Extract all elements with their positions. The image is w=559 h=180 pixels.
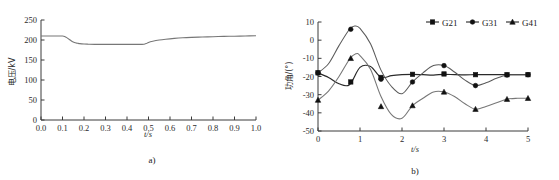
- y-tick-label: -50: [303, 126, 314, 136]
- series-marker-g31: [442, 63, 447, 68]
- y-tick-label: -30: [303, 90, 314, 100]
- x-tick-label: 4: [484, 134, 489, 144]
- chart-b-x-axis-title: t/s: [411, 144, 420, 154]
- chart-a-x-axis-title: t/s: [144, 129, 153, 139]
- series-marker-g31: [316, 71, 321, 76]
- series-marker-g31: [410, 80, 415, 85]
- chart-a-svg: 0.00.10.20.30.40.50.60.70.80.91.00501001…: [0, 0, 280, 180]
- series-marker-g31: [473, 83, 478, 88]
- y-tick-label: 10: [306, 17, 315, 27]
- chart-a-caption: a): [149, 155, 156, 165]
- y-tick-label: 0: [33, 115, 37, 125]
- y-tick-label: -40: [303, 108, 314, 118]
- y-tick-label: 200: [24, 35, 37, 45]
- x-tick-label: 0.9: [229, 123, 240, 133]
- legend-marker-g21: [430, 20, 434, 24]
- x-tick-label: 0.3: [100, 123, 111, 133]
- x-tick-label: 0.0: [36, 123, 47, 133]
- x-tick-label: 3: [442, 134, 446, 144]
- y-tick-label: 100: [24, 75, 37, 85]
- x-tick-label: 1: [358, 134, 362, 144]
- series-marker-g21: [473, 72, 477, 76]
- series-marker-g21: [410, 72, 414, 76]
- series-marker-g31: [526, 72, 531, 77]
- x-tick-label: 1.0: [251, 123, 262, 133]
- x-tick-label: 0.6: [165, 123, 176, 133]
- x-tick-label: 0.7: [186, 123, 197, 133]
- chart-a-y-axis-title: 电压/kV: [7, 57, 17, 86]
- x-tick-label: 0: [316, 134, 320, 144]
- legend-label-g31: G31: [482, 18, 498, 28]
- series-line-voltage: [41, 36, 256, 45]
- figure-root: 0.00.10.20.30.40.50.60.70.80.91.00501001…: [0, 0, 559, 180]
- chart-panel-a: 0.00.10.20.30.40.50.60.70.80.91.00501001…: [0, 0, 280, 180]
- chart-a-plot-area: 0.00.10.20.30.40.50.60.70.80.91.00501001…: [24, 15, 261, 133]
- x-tick-label: 5: [526, 134, 530, 144]
- chart-panel-b: 012345100-10-20-30-40-50 G21G31G41 功角/(°…: [280, 0, 559, 180]
- y-tick-label: 250: [24, 15, 37, 25]
- chart-b-plot-area: 012345100-10-20-30-40-50: [303, 17, 531, 144]
- legend-marker-g31: [470, 20, 475, 25]
- y-tick-label: 150: [24, 55, 37, 65]
- chart-b-svg: 012345100-10-20-30-40-50 G21G31G41 功角/(°…: [280, 0, 559, 180]
- chart-axes: [318, 22, 528, 131]
- y-tick-label: -20: [303, 72, 314, 82]
- y-tick-label: -10: [303, 53, 314, 63]
- legend-label-g41: G41: [522, 18, 538, 28]
- series-marker-g31: [348, 27, 353, 32]
- chart-b-legend: G21G31G41: [426, 18, 538, 28]
- y-tick-label: 50: [29, 95, 38, 105]
- y-tick-label: 0: [310, 35, 314, 45]
- series-marker-g21: [442, 72, 446, 76]
- series-marker-g31: [379, 77, 384, 82]
- series-marker-g41: [378, 104, 383, 109]
- chart-b-y-axis-title: 功角/(°): [284, 62, 294, 91]
- series-marker-g31: [505, 73, 510, 78]
- chart-b-caption: b): [411, 166, 419, 176]
- x-tick-label: 0.8: [208, 123, 219, 133]
- x-tick-label: 2: [400, 134, 404, 144]
- x-tick-label: 0.4: [122, 123, 133, 133]
- chart-axes: [41, 20, 256, 120]
- series-line-g41: [318, 53, 528, 118]
- x-tick-label: 0.2: [79, 123, 90, 133]
- legend-label-g21: G21: [442, 18, 458, 28]
- series-marker-g21: [349, 80, 353, 84]
- x-tick-label: 0.1: [57, 123, 68, 133]
